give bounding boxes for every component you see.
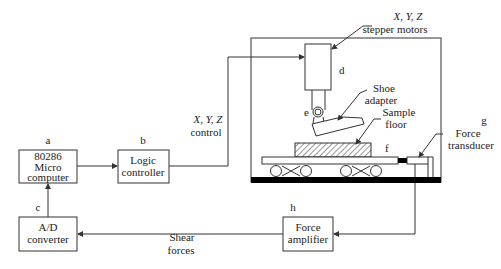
svg-text:adapter: adapter xyxy=(365,94,398,106)
tag-e: e xyxy=(304,106,309,118)
arrow-logic-to-motors xyxy=(169,57,304,166)
svg-text:Force: Force xyxy=(455,127,480,139)
tag-g: g xyxy=(481,114,487,126)
tag-d: d xyxy=(339,64,345,76)
forces-label: forces xyxy=(168,244,195,256)
arrow-transducer-to-amp xyxy=(334,163,415,234)
svg-text:converter: converter xyxy=(27,233,69,245)
svg-text:Force: Force xyxy=(295,221,320,233)
svg-text:Shoe: Shoe xyxy=(373,82,395,94)
control-label: control xyxy=(190,126,221,138)
stepper-motor-unit: d e xyxy=(304,44,364,136)
svg-text:Logic: Logic xyxy=(130,154,156,166)
logic-controller-block: b Logic controller xyxy=(118,134,169,183)
test-apparatus-diagram: a 80286 Micro computer b Logic controlle… xyxy=(0,0,501,269)
svg-text:Sample: Sample xyxy=(383,106,416,118)
svg-text:amplifier: amplifier xyxy=(288,233,329,245)
micro-computer-block: a 80286 Micro computer xyxy=(19,134,77,183)
svg-text:controller: controller xyxy=(122,166,165,178)
control-label-axes: X, Y, Z xyxy=(193,113,224,125)
sample-floor xyxy=(295,143,371,157)
svg-text:computer: computer xyxy=(27,171,69,183)
svg-text:X, Y, Z: X, Y, Z xyxy=(393,10,424,22)
svg-text:stepper motors: stepper motors xyxy=(362,23,427,35)
base-plate xyxy=(251,177,441,183)
tag-b: b xyxy=(140,134,146,146)
shear-label: Shear xyxy=(169,231,194,243)
tag-c: c xyxy=(36,201,41,213)
tag-h: h xyxy=(290,201,296,213)
force-amplifier-block: h Force amplifier xyxy=(283,201,333,251)
svg-text:A/D: A/D xyxy=(39,221,58,233)
svg-text:floor: floor xyxy=(385,118,407,130)
tag-f: f xyxy=(385,142,389,154)
tag-a: a xyxy=(46,134,51,146)
moving-platform xyxy=(262,157,398,164)
platform-wheels xyxy=(271,166,382,177)
svg-text:transducer: transducer xyxy=(448,139,494,151)
